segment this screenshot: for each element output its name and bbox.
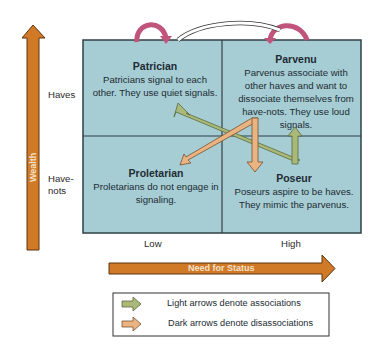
quadrant-text: Parvenus associate with other haves and … [233,66,359,131]
quadrant-patrician: Patrician Patricians signal to each othe… [92,60,218,99]
quadrant-parvenu: Parvenu Parvenus associate with other ha… [233,53,359,131]
status-axis-label: Need for Status [188,262,255,274]
quadrant-title: Parvenu [233,53,359,66]
wealth-axis-arrow [22,25,45,250]
y-tick-have-nots: Have- nots [48,173,74,197]
quadrant-text: Poseurs aspire to be haves. They mimic t… [228,185,360,211]
wealth-axis-label: Wealth [28,158,38,182]
quadrant-poseur: Poseur Poseurs aspire to be haves. They … [228,172,360,211]
y-tick-haves: Haves [48,89,75,101]
x-tick-low: Low [144,238,162,250]
legend-item-associations: Light arrows denote associations [167,298,301,308]
quadrant-title: Poseur [228,172,360,185]
x-tick-high: High [281,238,301,250]
quadrant-title: Proletarian [90,167,222,180]
parvenu-to-patrician-arc [178,23,280,40]
legend-item-disassociations: Dark arrows denote disassociations [168,318,313,328]
quadrant-title: Patrician [92,60,218,73]
quadrant-text: Proletarians do not engage in signaling. [90,180,222,206]
quadrant-proletarian: Proletarian Proletarians do not engage i… [90,167,222,206]
quadrant-text: Patricians signal to each other. They us… [92,73,218,99]
